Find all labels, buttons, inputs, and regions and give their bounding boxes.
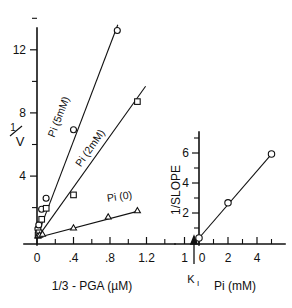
- data-point: [71, 192, 77, 198]
- ki-label: K: [187, 273, 195, 285]
- left-y-ticklabel-12: 12: [13, 43, 27, 57]
- right-y-ticklabel-4: 4: [182, 176, 189, 190]
- left-x-axis-title: 1/3 - PGA (µM): [52, 279, 132, 293]
- right-x-ticklabel-2: 2: [225, 251, 232, 265]
- data-point: [105, 214, 111, 219]
- chart-canvas: 12 8 4 1 V 0 .4 .8 1.2 1: [0, 0, 292, 308]
- left-x-ticklabel-0.4: .4: [68, 251, 78, 265]
- data-point: [225, 200, 231, 206]
- right-y-axis-title: 1/SLOPE: [169, 165, 183, 215]
- right-panel: 6 4 2 1/SLOPE 1 0 2 4 Pi (mM): [169, 132, 285, 293]
- left-x-ticklabel-1.2: 1.2: [138, 251, 155, 265]
- data-point: [71, 127, 77, 133]
- series-pi-0: Pi (0): [35, 188, 140, 238]
- left-x-ticklabel-0.8: .8: [105, 251, 115, 265]
- right-x-ticklabel-0: 0: [199, 251, 206, 265]
- right-y-ticklabel-6: 6: [182, 146, 189, 160]
- series-one-over-slope: [194, 151, 275, 244]
- left-panel: 12 8 4 1 V 0 .4 .8 1.2 1: [10, 18, 175, 293]
- left-y-ticklabel-4: 4: [19, 169, 26, 183]
- right-y-ticklabel-2: 2: [182, 206, 189, 220]
- series-label-pi-0: Pi (0): [106, 188, 133, 203]
- data-point: [135, 99, 141, 105]
- left-y-axis-title: 1 V: [10, 122, 25, 149]
- data-point: [39, 217, 45, 223]
- data-point: [36, 222, 42, 228]
- data-point: [71, 225, 77, 230]
- series-label-pi-5mm: Pi (5mM): [45, 95, 71, 139]
- left-y-axis-title-denominator: V: [16, 134, 25, 149]
- series-pi-2mm: Pi (2mM): [35, 86, 145, 238]
- data-point: [43, 206, 49, 212]
- left-y-ticklabel-8: 8: [19, 106, 26, 120]
- data-point: [268, 151, 274, 157]
- right-x-axis-title: Pi (mM): [214, 279, 256, 293]
- figure-container: 12 8 4 1 V 0 .4 .8 1.2 1: [0, 0, 292, 308]
- data-point: [114, 28, 120, 34]
- data-point: [196, 235, 202, 241]
- data-point: [43, 195, 49, 201]
- left-x-ticklabel-0: 0: [34, 251, 41, 265]
- ki-label-subscript: I: [197, 279, 199, 288]
- data-point: [134, 208, 140, 213]
- right-x-ticklabel--1: 1: [181, 251, 188, 265]
- right-x-ticklabel-4: 4: [254, 251, 261, 265]
- series-pi-2mm-fit-line: [37, 86, 146, 238]
- series-one-over-slope-fit-line: [194, 153, 272, 244]
- series-pi-0-fit-line: [37, 211, 139, 238]
